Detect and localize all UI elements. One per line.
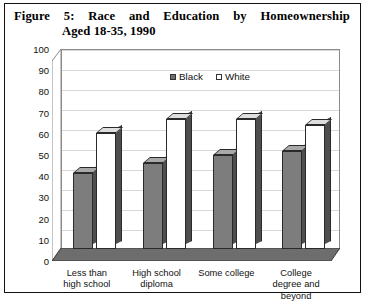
- title-word: and: [129, 9, 150, 24]
- chart-area: 1009080706050403020100 BlackWhite Less t…: [5, 42, 360, 292]
- bar-front-face: [236, 119, 256, 249]
- figure-title: Figure 5: Race and Education by Homeowne…: [5, 4, 360, 38]
- title-word: Education: [163, 9, 219, 24]
- x-label-line: College: [253, 268, 339, 279]
- bar-front-face: [96, 133, 116, 249]
- title-word: Figure: [14, 9, 50, 24]
- bar-side-face: [116, 125, 122, 244]
- bar-group: [61, 49, 131, 249]
- x-axis-category-label: Collegedegree andbeyond: [253, 268, 339, 302]
- figure-title-line-2: Aged 18-35, 1990: [14, 24, 350, 39]
- bar-front-face: [143, 163, 163, 249]
- y-axis-tick-label: 50: [38, 150, 49, 161]
- y-axis-tick-labels: 1009080706050403020100: [23, 42, 49, 292]
- legend-swatch-icon: [170, 74, 176, 80]
- y-axis-tick-label: 0: [44, 256, 49, 267]
- bar-front-face: [282, 151, 302, 249]
- y-axis-tick-label: 90: [38, 65, 49, 76]
- x-label-line: diploma: [114, 279, 200, 290]
- y-axis-tick-label: 10: [38, 234, 49, 245]
- y-axis-tick-label: 30: [38, 192, 49, 203]
- title-word: by: [233, 9, 247, 24]
- bar-group: [270, 49, 340, 249]
- y-axis-tick-label: 100: [33, 44, 49, 55]
- y-axis-tick-label: 20: [38, 213, 49, 224]
- bar-front-face: [213, 155, 233, 249]
- title-word: 5:: [64, 9, 75, 24]
- y-axis-tick-label: 80: [38, 86, 49, 97]
- legend-swatch-icon: [216, 74, 222, 80]
- bar-side-face: [186, 111, 192, 244]
- x-axis-category-labels: Less thanhigh schoolHigh schooldiplomaSo…: [52, 268, 340, 305]
- bar-front-face: [73, 173, 93, 249]
- legend-item-white: White: [216, 71, 250, 82]
- x-label-line: beyond: [253, 291, 339, 302]
- bar-front-face: [166, 119, 186, 249]
- y-axis-tick-label: 70: [38, 107, 49, 118]
- y-axis-tick-label: 60: [38, 128, 49, 139]
- legend-item-black: Black: [170, 71, 203, 82]
- bar-side-face: [256, 111, 262, 244]
- chart-legend: BlackWhite: [170, 71, 250, 82]
- figure-frame: Figure 5: Race and Education by Homeowne…: [4, 3, 361, 293]
- x-label-line: degree and: [253, 279, 339, 290]
- bar-side-face: [325, 117, 331, 244]
- title-word: Homeownership: [260, 9, 349, 24]
- figure-title-line-1: Figure 5: Race and Education by Homeowne…: [14, 9, 350, 24]
- bar-front-face: [305, 125, 325, 249]
- title-word: Race: [88, 9, 115, 24]
- y-axis-tick-label: 40: [38, 171, 49, 182]
- plot-floor-3d: [52, 248, 340, 261]
- plot-area: BlackWhite: [52, 49, 340, 261]
- legend-label: White: [225, 71, 250, 82]
- legend-label: Black: [179, 71, 203, 82]
